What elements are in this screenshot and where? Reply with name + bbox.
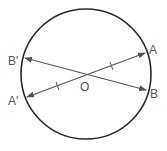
label-a-prime: A′ — [8, 94, 19, 108]
label-a: A — [149, 43, 157, 57]
label-b-prime: B′ — [8, 54, 19, 68]
circle-diagram: A B B′ A′ O — [0, 0, 167, 151]
label-center-o: O — [80, 80, 89, 94]
label-b: B — [150, 87, 158, 101]
